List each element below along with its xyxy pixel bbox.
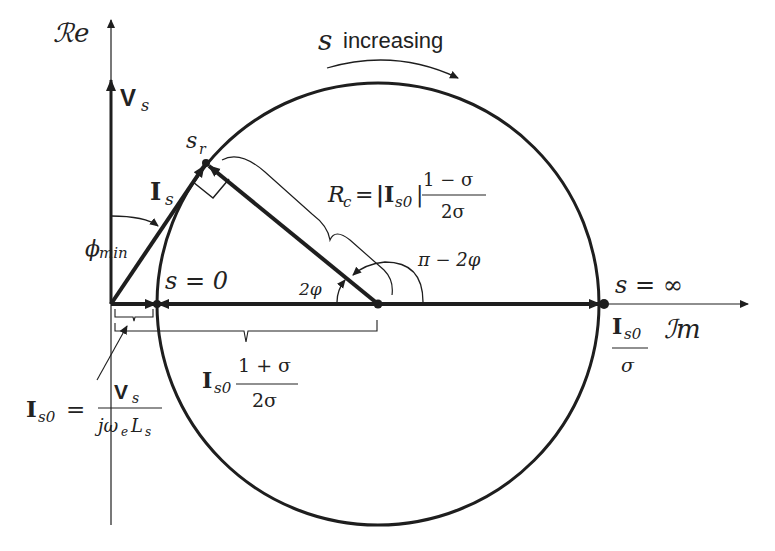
svg-text:L: L <box>130 415 143 436</box>
svg-text:=: = <box>66 396 85 422</box>
svg-text:s0: s0 <box>624 325 642 343</box>
svg-text:R: R <box>327 182 345 207</box>
s-infinity-point <box>599 299 609 309</box>
svg-text:|I: |I <box>376 181 394 208</box>
is0-definition-label: I s0 = V s jω e L s <box>26 380 162 439</box>
rc-label: R c = |I s0 | 1 − σ 2σ <box>327 169 486 222</box>
svg-text:c: c <box>343 193 352 211</box>
svg-text:I: I <box>26 395 37 422</box>
imag-axis-label: ℐm <box>664 314 701 344</box>
svg-text:σ: σ <box>621 354 635 376</box>
direction-text: increasing <box>343 28 443 53</box>
real-axis-label: ℛe <box>53 18 89 48</box>
center-brace <box>115 320 377 342</box>
is-label-sub: s <box>165 189 174 209</box>
phi-min-label-sub: min <box>99 244 128 262</box>
svg-text:jω: jω <box>94 415 119 436</box>
is0-brace <box>115 309 153 321</box>
s-zero-point <box>153 300 161 308</box>
s-infinity-label: s = ∞ <box>615 271 683 299</box>
svg-text:1 + σ: 1 + σ <box>238 354 291 376</box>
circle-diagram: ℛe ℐm s increasing V s I s s r ϕ min s =… <box>0 0 775 551</box>
rc-brace <box>222 157 392 295</box>
right-angle-marker <box>193 179 229 198</box>
svg-text:s: s <box>132 390 139 406</box>
s-zero-label: s = 0 <box>165 267 228 295</box>
pi-minus-arc <box>353 262 423 302</box>
svg-text:s: s <box>145 425 151 439</box>
far-point-label: I s0 σ <box>612 313 648 376</box>
pi-minus-two-phi-label: π − 2φ <box>417 249 481 270</box>
is-label-main: I <box>150 177 161 206</box>
sr-label-sub: r <box>199 141 207 157</box>
svg-text:I: I <box>612 313 622 339</box>
svg-text:2σ: 2σ <box>252 389 277 411</box>
svg-text:=: = <box>355 182 373 207</box>
two-phi-label: 2φ <box>298 279 322 299</box>
vs-label-main: V <box>120 84 136 111</box>
two-phi-arc <box>337 280 345 302</box>
phi-min-arc <box>111 216 158 226</box>
svg-text:1 − σ: 1 − σ <box>423 169 473 190</box>
sr-label-main: s <box>186 128 197 153</box>
svg-text:V: V <box>114 380 128 403</box>
phi-min-label-main: ϕ <box>85 236 100 261</box>
svg-text:s0: s0 <box>214 379 232 397</box>
vs-label-sub: s <box>141 96 149 115</box>
is0-pointer <box>97 326 127 380</box>
svg-text:s0: s0 <box>395 193 413 211</box>
s-increasing-arrow-icon <box>327 60 458 78</box>
svg-text:I: I <box>202 367 212 393</box>
radius-vector <box>209 166 378 304</box>
direction-symbol: s <box>318 24 332 57</box>
svg-text:2σ: 2σ <box>441 201 465 222</box>
svg-text:e: e <box>121 425 128 439</box>
svg-text:s0: s0 <box>38 408 56 426</box>
center-label: I s0 1 + σ 2σ <box>202 354 298 411</box>
